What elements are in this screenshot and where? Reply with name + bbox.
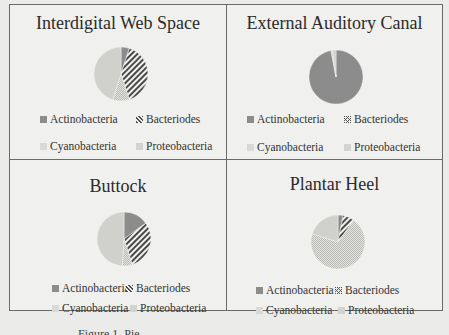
pie-chart [96, 211, 152, 267]
legend-item-actinobacteria: Actinobacteria [256, 284, 334, 296]
legend-item-proteobacteria: Proteobacteria [338, 304, 414, 316]
chart-grid: Interdigital Web Space Actinobacteria Ba… [9, 4, 443, 311]
legend-label: Bacteriodes [146, 113, 200, 125]
legend: Actinobacteria Bacteriodes Cyanobacteria… [227, 113, 442, 158]
legend-item-bacteriodes: Bacteriodes [335, 284, 399, 296]
swatch-icon [247, 116, 254, 123]
legend-label: Actinobacteria [257, 113, 325, 125]
legend-item-actinobacteria: Actinobacteria [247, 113, 325, 125]
swatch-icon [130, 305, 137, 312]
chart-title: External Auditory Canal [227, 13, 442, 34]
pie-chart [93, 46, 149, 102]
legend-label: Cyanobacteria [50, 140, 116, 152]
swatch-icon [40, 116, 47, 123]
legend: Actinobacteria Bacteriodes Cyanobacteria… [227, 284, 442, 314]
swatch-icon [335, 287, 342, 294]
legend-item-bacteriodes: Bacteriodes [136, 113, 200, 125]
legend-label: Bacteriodes [354, 113, 408, 125]
swatch-icon [256, 287, 263, 294]
legend-item-proteobacteria: Proteobacteria [344, 141, 420, 153]
swatch-icon [126, 285, 133, 292]
swatch-icon [136, 143, 143, 150]
swatch-icon [344, 116, 351, 123]
pie-chart [310, 214, 366, 270]
legend-label: Actinobacteria [266, 284, 334, 296]
legend-label: Bacteriodes [136, 282, 190, 294]
panel-external-auditory-canal: External Auditory Canal Actinobacteria B… [227, 5, 442, 160]
legend-item-cyanobacteria: Cyanobacteria [247, 141, 323, 153]
legend-item-cyanobacteria: Cyanobacteria [40, 140, 116, 152]
legend-label: Cyanobacteria [257, 141, 323, 153]
legend-item-proteobacteria: Proteobacteria [130, 302, 206, 314]
legend-label: Actinobacteria [62, 282, 130, 294]
swatch-icon [52, 285, 59, 292]
swatch-icon [256, 307, 263, 314]
swatch-icon [344, 144, 351, 151]
swatch-icon [338, 307, 345, 314]
pie-slice-proteobacteria [97, 212, 124, 266]
legend-item-actinobacteria: Actinobacteria [52, 282, 130, 294]
swatch-icon [40, 143, 47, 150]
legend: Actinobacteria Bacteriodes Cyanobacteria… [10, 282, 227, 312]
legend-item-bacteriodes: Bacteriodes [126, 282, 190, 294]
swatch-icon [52, 305, 59, 312]
legend-item-proteobacteria: Proteobacteria [136, 140, 212, 152]
legend-item-cyanobacteria: Cyanobacteria [52, 302, 128, 314]
chart-title: Interdigital Web Space [10, 13, 226, 34]
swatch-icon [247, 144, 254, 151]
chart-title: Buttock [10, 176, 226, 197]
legend-label: Proteobacteria [348, 304, 414, 316]
legend: Actinobacteria Bacteriodes Cyanobacteria… [10, 113, 227, 158]
legend-label: Actinobacteria [50, 113, 118, 125]
figure-caption: Figure 1. Pie [78, 324, 140, 335]
chart-title: Plantar Heel [227, 174, 442, 195]
legend-label: Proteobacteria [146, 140, 212, 152]
panel-plantar-heel: Plantar Heel Actinobacteria Bacteriodes … [227, 160, 442, 310]
panel-interdigital-web-space: Interdigital Web Space Actinobacteria Ba… [10, 5, 227, 160]
pie-chart [308, 49, 364, 105]
legend-label: Bacteriodes [345, 284, 399, 296]
legend-label: Proteobacteria [354, 141, 420, 153]
legend-label: Cyanobacteria [62, 302, 128, 314]
legend-label: Cyanobacteria [266, 304, 332, 316]
legend-label: Proteobacteria [140, 302, 206, 314]
legend-item-bacteriodes: Bacteriodes [344, 113, 408, 125]
legend-item-cyanobacteria: Cyanobacteria [256, 304, 332, 316]
swatch-icon [136, 116, 143, 123]
legend-item-actinobacteria: Actinobacteria [40, 113, 118, 125]
panel-buttock: Buttock Actinobacteria Bacteriodes Cyano… [10, 160, 227, 310]
